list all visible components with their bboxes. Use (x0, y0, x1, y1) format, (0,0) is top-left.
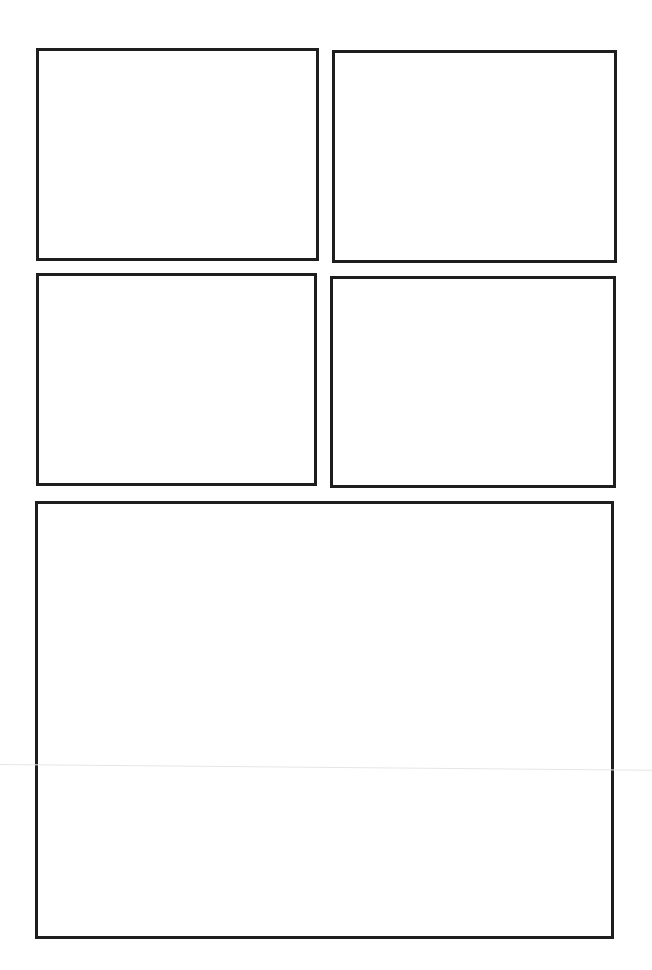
comic-panel-3 (36, 273, 317, 486)
comic-panel-2 (332, 50, 617, 263)
comic-panel-1 (36, 48, 319, 261)
comic-panel-5 (35, 501, 614, 939)
comic-panel-4 (330, 276, 616, 488)
